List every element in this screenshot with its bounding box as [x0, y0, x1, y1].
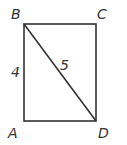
- vertex-label-d: D: [98, 125, 109, 141]
- vertex-label-c: C: [97, 6, 107, 22]
- vertex-label-a: A: [7, 125, 18, 141]
- side-ab-length: 4: [11, 64, 20, 80]
- vertex-label-b: B: [11, 6, 21, 22]
- diagonal-bd-length: 5: [60, 57, 69, 73]
- geometry-diagram: B C A D 4 5: [0, 0, 127, 145]
